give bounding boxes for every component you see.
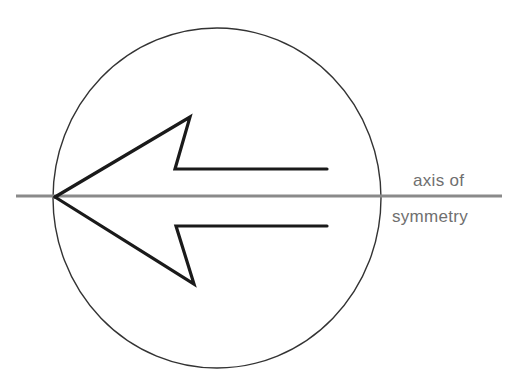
arrow-lower-half xyxy=(55,197,327,284)
circle-outline xyxy=(53,28,381,368)
axis-label-line2: symmetry xyxy=(392,208,468,225)
axis-label-line1: axis of xyxy=(413,172,464,189)
arrow-upper-half xyxy=(55,117,327,197)
